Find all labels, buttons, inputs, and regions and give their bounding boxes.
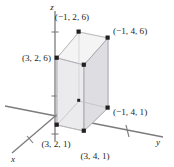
vertex-dot-bottom-back-right [106, 106, 110, 110]
vertex-dot-top-front-left [55, 56, 59, 60]
figure-container: z y x (−1, 2, 6) (−1, 4, 6) (3, 2, 6) (−… [0, 0, 174, 167]
coord-label-bottom-front-right: (3, 4, 1) [80, 151, 109, 161]
coord-label-bottom-back-right: (−1, 4, 1) [113, 107, 147, 117]
coord-label-top-back-right: (−1, 4, 6) [113, 26, 147, 36]
y-axis-tick-1 [126, 125, 129, 137]
coord-label-bottom-front-left: (3, 2, 1) [41, 139, 70, 149]
coord-label-top-back-left: (−1, 2, 6) [55, 12, 89, 22]
coordinate-diagram-svg: z y x (−1, 2, 6) (−1, 4, 6) (3, 2, 6) (−… [0, 0, 174, 167]
coord-label-top-front-left: (3, 2, 6) [22, 53, 51, 63]
x-axis-label: x [10, 154, 15, 164]
vertex-dot-bottom-back-left-hidden [77, 99, 80, 102]
vertex-dot-top-front-right [82, 63, 86, 67]
z-axis-label: z [49, 2, 54, 12]
y-axis-label: y [155, 137, 160, 147]
vertex-dot-top-back-left [77, 30, 81, 34]
vertex-dot-bottom-front-left [55, 123, 59, 127]
box-face-front [57, 58, 84, 131]
vertex-dot-top-back-right [106, 36, 110, 40]
box-group [57, 32, 108, 131]
vertex-dot-bottom-front-right [82, 129, 86, 133]
